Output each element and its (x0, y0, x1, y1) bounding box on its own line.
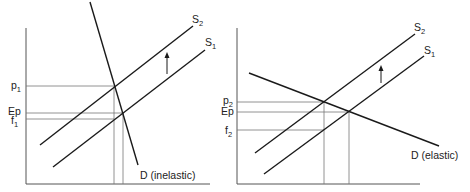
supply-demand-diagrams: S2 S1 D (inelastic) p1 Ep f1 S2 S1 D (el… (0, 0, 470, 192)
left-s1-label: S1 (205, 36, 216, 51)
left-supply-s1 (53, 50, 205, 167)
left-supply-s2 (40, 26, 193, 145)
right-demand-curve (249, 73, 439, 146)
left-label-ep: Ep (8, 105, 21, 117)
left-s2-label: S2 (192, 13, 203, 28)
right-shift-arrow-icon (379, 65, 384, 83)
left-demand-label: D (inelastic) (140, 169, 195, 181)
right-s1-label: S1 (424, 44, 435, 59)
left-panel-inelastic: S2 S1 D (inelastic) p1 Ep f1 (8, 2, 216, 184)
right-panel-elastic: S2 S1 D (elastic) p2 Ep f2 (221, 21, 458, 184)
right-supply-s2 (255, 34, 415, 153)
right-label-f2: f2 (225, 124, 232, 139)
left-shift-arrow-icon (165, 52, 170, 74)
right-label-ep: Ep (221, 105, 234, 117)
right-demand-label: D (elastic) (411, 149, 458, 161)
left-label-p1: p1 (11, 79, 21, 94)
right-supply-s1 (264, 56, 424, 174)
right-s2-label: S2 (414, 21, 425, 36)
